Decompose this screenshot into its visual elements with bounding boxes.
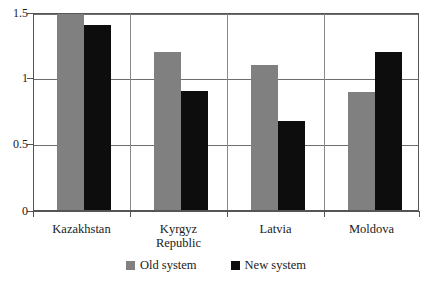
legend-label-old-system: Old system [140, 259, 197, 272]
y-tick-1.5 [27, 13, 34, 14]
gridline-1.5 [34, 14, 418, 15]
bar-chart: 1.5 1 0.5 0 Kazakhstan Kyrgyz Republic L… [0, 0, 432, 283]
x-tick-0 [33, 211, 34, 217]
x-tick-4 [419, 211, 420, 217]
chart-legend: Old system New system [0, 259, 432, 272]
y-axis-label-1.5: 1.5 [13, 7, 28, 19]
category-separator-2 [227, 14, 228, 210]
x-tick-2 [227, 211, 228, 217]
legend-label-new-system: New system [245, 259, 306, 272]
y-axis-label-0.5: 0.5 [13, 138, 28, 150]
legend-swatch-new-system-icon [231, 261, 240, 270]
bar-new-kyrgyz-republic [181, 91, 208, 210]
bar-new-latvia [278, 121, 305, 210]
legend-item-new-system: New system [231, 259, 306, 272]
legend-item-old-system: Old system [126, 259, 197, 272]
y-axis-label-0: 0 [22, 205, 28, 217]
y-tick-1.0 [27, 78, 34, 79]
bar-old-kazakhstan [57, 13, 84, 210]
x-axis-label-kyrgyz-republic: Kyrgyz Republic [130, 223, 227, 250]
legend-swatch-old-system-icon [126, 261, 135, 270]
plot-area [33, 13, 419, 211]
bar-old-latvia [251, 65, 278, 210]
bar-new-kazakhstan [84, 25, 111, 210]
category-separator-3 [324, 14, 325, 210]
x-axis-label-kazakhstan: Kazakhstan [33, 223, 130, 237]
x-axis-label-latvia: Latvia [227, 223, 324, 237]
x-axis-label-moldova: Moldova [324, 223, 419, 237]
category-separator-1 [130, 14, 131, 210]
x-tick-1 [130, 211, 131, 217]
y-tick-0.5 [27, 144, 34, 145]
bar-new-moldova [375, 52, 402, 210]
x-tick-3 [324, 211, 325, 217]
y-axis-label-1: 1 [22, 72, 28, 84]
bar-old-kyrgyz-republic [154, 52, 181, 210]
y-axis-line [33, 13, 34, 212]
bar-old-moldova [348, 92, 375, 210]
